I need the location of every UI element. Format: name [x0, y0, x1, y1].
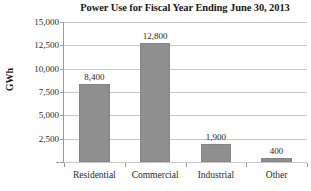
bar-industrial[interactable] — [201, 144, 232, 162]
y-axis-tick-label: 15,000 — [15, 17, 59, 27]
gridline — [64, 45, 307, 46]
bar-value-label: 400 — [248, 146, 305, 156]
x-axis-tick-mark — [186, 163, 187, 167]
gridline — [64, 69, 307, 70]
bar-value-label: 1,900 — [187, 132, 244, 142]
y-axis-tick-label: 2,500 — [15, 134, 59, 144]
bar-other[interactable] — [261, 158, 292, 162]
chart-title: Power Use for Fiscal Year Ending June 30… — [63, 2, 307, 13]
x-axis-label-residential: Residential — [64, 170, 125, 180]
x-axis-tick-mark — [307, 163, 308, 167]
y-axis-tick-label: 7,500 — [15, 87, 59, 97]
bar-value-label: 8,400 — [66, 72, 123, 82]
x-axis-label-other: Other — [246, 170, 307, 180]
x-axis-tick-mark — [125, 163, 126, 167]
bar-residential[interactable] — [79, 84, 110, 162]
x-axis-tick-mark — [64, 163, 65, 167]
bar-value-label: 12,800 — [126, 31, 183, 41]
x-axis-label-industrial: Industrial — [186, 170, 247, 180]
y-axis-tick-label: 5,000 — [15, 110, 59, 120]
y-axis-title: GWh — [4, 58, 15, 102]
x-axis-tick-mark — [246, 163, 247, 167]
bar-chart: Power Use for Fiscal Year Ending June 30… — [0, 0, 311, 191]
y-axis-tick-label: 12,500 — [15, 40, 59, 50]
y-axis-tick-label: - — [15, 157, 59, 167]
x-axis-label-commercial: Commercial — [125, 170, 186, 180]
plot-area: 8,40012,8001,900400 — [64, 22, 307, 162]
bar-commercial[interactable] — [140, 43, 171, 162]
y-axis-tick-label: 10,000 — [15, 64, 59, 74]
gridline — [64, 22, 307, 23]
